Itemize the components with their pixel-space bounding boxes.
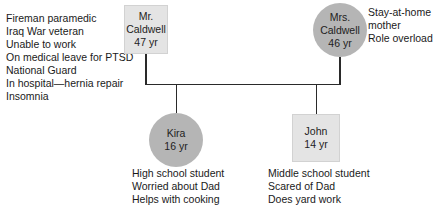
john-note: Does yard work xyxy=(268,193,370,206)
father-note: Unable to work xyxy=(6,38,133,51)
father-note: National Guard xyxy=(6,64,133,77)
father-name-line1: Mr. xyxy=(139,10,154,23)
father-connector-line xyxy=(145,54,147,85)
mother-note: Stay-at-home xyxy=(368,6,433,19)
father-node: Mr. Caldwell 47 yr xyxy=(124,5,168,54)
mother-node: Mrs. Caldwell 46 yr xyxy=(313,3,367,57)
mother-note: Role overload xyxy=(368,32,433,45)
father-note: Fireman paramedic xyxy=(6,12,133,25)
father-note: In hospital—hernia repair xyxy=(6,77,133,90)
kira-name: Kira xyxy=(167,127,186,140)
john-age: 14 yr xyxy=(304,138,327,151)
father-notes: Fireman paramedic Iraq War veteran Unabl… xyxy=(6,12,133,103)
john-node: John 14 yr xyxy=(292,114,340,162)
mother-note: mother xyxy=(368,19,433,32)
kira-age: 16 yr xyxy=(164,140,187,153)
mother-name-line1: Mrs. xyxy=(330,11,350,24)
mother-notes: Stay-at-home mother Role overload xyxy=(368,6,433,45)
kira-note: Worried about Dad xyxy=(132,180,224,193)
father-note: Iraq War veteran xyxy=(6,25,133,38)
kira-note: Helps with cooking xyxy=(132,193,224,206)
mother-connector-line xyxy=(339,57,341,85)
john-connector-line xyxy=(316,84,318,114)
kira-notes: High school student Worried about Dad He… xyxy=(132,167,224,206)
john-notes: Middle school student Scared of Dad Does… xyxy=(268,167,370,206)
john-name: John xyxy=(305,125,328,138)
john-note: Scared of Dad xyxy=(268,180,370,193)
marriage-line xyxy=(145,84,341,86)
father-name-line2: Caldwell xyxy=(126,23,166,36)
father-note: Insomnia xyxy=(6,90,133,103)
father-note: On medical leave for PTSD xyxy=(6,51,133,64)
kira-note: High school student xyxy=(132,167,224,180)
mother-name-line2: Caldwell xyxy=(320,24,360,37)
kira-node: Kira 16 yr xyxy=(149,113,203,167)
father-age: 47 yr xyxy=(134,36,157,49)
john-note: Middle school student xyxy=(268,167,370,180)
mother-age: 46 yr xyxy=(328,37,351,50)
kira-connector-line xyxy=(176,84,178,113)
